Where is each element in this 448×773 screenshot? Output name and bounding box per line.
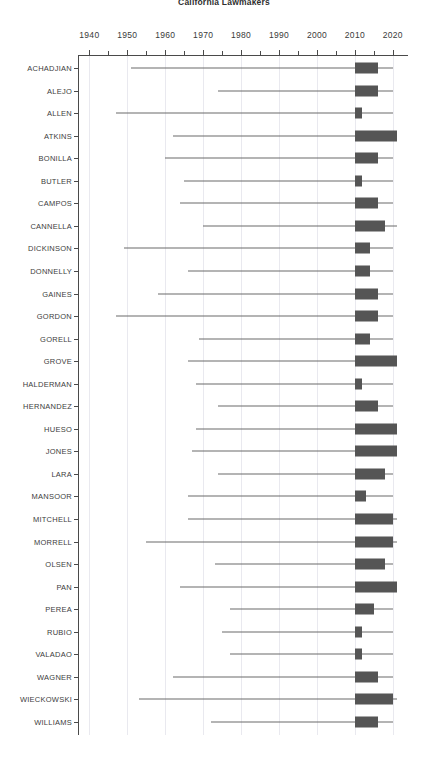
y-axis-label-butler: BUTLER xyxy=(41,176,72,185)
y-axis-label-achadjian: ACHADJIAN xyxy=(27,64,72,73)
box xyxy=(355,559,385,570)
box xyxy=(355,220,385,231)
box xyxy=(355,536,393,547)
whisker xyxy=(124,248,393,249)
x-tick-1970 xyxy=(203,50,204,56)
y-axis-label-wieckowski: WIECKOWSKI xyxy=(20,695,72,704)
y-tick xyxy=(74,519,79,520)
y-tick xyxy=(74,339,79,340)
y-tick xyxy=(74,158,79,159)
box xyxy=(355,175,363,186)
x-tick-1940 xyxy=(89,50,90,56)
box xyxy=(355,446,397,457)
box xyxy=(355,108,363,119)
y-tick xyxy=(74,181,79,182)
y-tick xyxy=(74,496,79,497)
y-tick xyxy=(74,248,79,249)
gridline-2020 xyxy=(393,55,394,735)
y-axis-label-donnelly: DONNELLY xyxy=(30,266,72,275)
y-axis-label-perea: PEREA xyxy=(45,605,72,614)
whisker xyxy=(230,654,393,655)
x-tick-label-1960: 1960 xyxy=(155,30,175,40)
box xyxy=(355,130,397,141)
y-axis-label-bonilla: BONILLA xyxy=(39,154,72,163)
box xyxy=(355,265,370,276)
y-axis-label-hernandez: HERNANDEZ xyxy=(23,402,72,411)
x-tick-label-1950: 1950 xyxy=(117,30,137,40)
y-axis-label-gaines: GAINES xyxy=(42,289,72,298)
x-tick-1960 xyxy=(165,50,166,56)
whisker xyxy=(196,383,393,384)
y-tick xyxy=(74,474,79,475)
y-tick xyxy=(74,451,79,452)
x-tick-2020 xyxy=(393,50,394,56)
x-tick-label-2010: 2010 xyxy=(345,30,365,40)
box xyxy=(355,423,397,434)
box xyxy=(355,153,378,164)
y-axis-label-hueso: HUESO xyxy=(44,424,72,433)
y-tick xyxy=(74,226,79,227)
y-axis-label-jones: JONES xyxy=(46,447,72,456)
x-tick-1990 xyxy=(279,50,280,56)
y-axis-label-allen: ALLEN xyxy=(47,109,72,118)
box xyxy=(355,63,378,74)
y-tick xyxy=(74,203,79,204)
x-tick-label-1970: 1970 xyxy=(193,30,213,40)
y-axis-label-gordon: GORDON xyxy=(37,312,72,321)
box xyxy=(355,514,393,525)
box xyxy=(355,491,366,502)
gridline-1940 xyxy=(89,55,90,735)
x-tick-label-2020: 2020 xyxy=(383,30,403,40)
whisker xyxy=(116,113,393,114)
y-axis-label-halderman: HALDERMAN xyxy=(23,379,72,388)
box xyxy=(355,198,378,209)
y-tick xyxy=(74,113,79,114)
y-axis-label-pan: PAN xyxy=(56,582,72,591)
y-tick xyxy=(74,429,79,430)
y-axis-label-mansoor: MANSOOR xyxy=(31,492,72,501)
x-tick-label-1990: 1990 xyxy=(269,30,289,40)
chart-root: California Lawmakers 1940195019601970198… xyxy=(0,0,448,773)
y-axis-label-gorell: GORELL xyxy=(40,334,72,343)
y-axis-label-lara: LARA xyxy=(51,469,72,478)
y-axis-label-morrell: MORRELL xyxy=(34,537,72,546)
y-tick xyxy=(74,406,79,407)
y-axis-label-wagner: WAGNER xyxy=(37,672,72,681)
y-axis-label-atkins: ATKINS xyxy=(44,131,72,140)
y-axis-label-olsen: OLSEN xyxy=(45,560,72,569)
y-tick xyxy=(74,632,79,633)
box xyxy=(355,85,378,96)
gridline-1950 xyxy=(127,55,128,735)
plot-area: 194019501960197019801990200020102020 ACH… xyxy=(78,55,408,735)
x-tick-2015 xyxy=(374,51,375,56)
y-tick xyxy=(74,699,79,700)
y-tick xyxy=(74,91,79,92)
box xyxy=(355,468,385,479)
x-tick-1985 xyxy=(260,51,261,56)
y-tick xyxy=(74,654,79,655)
x-tick-2005 xyxy=(336,51,337,56)
y-tick xyxy=(74,68,79,69)
x-tick-2010 xyxy=(355,50,356,56)
x-tick-1995 xyxy=(298,51,299,56)
y-tick xyxy=(74,677,79,678)
box xyxy=(355,581,397,592)
box xyxy=(355,311,378,322)
y-axis-label-dickinson: DICKINSON xyxy=(28,244,72,253)
y-tick xyxy=(74,136,79,137)
y-tick xyxy=(74,542,79,543)
y-axis-label-cannella: CANNELLA xyxy=(30,221,72,230)
box xyxy=(355,604,374,615)
y-tick xyxy=(74,271,79,272)
y-axis-label-mitchell: MITCHELL xyxy=(33,515,72,524)
y-axis-line xyxy=(78,55,79,735)
y-axis-label-valadao: VALADAO xyxy=(35,650,72,659)
y-axis-label-rubio: RUBIO xyxy=(47,627,72,636)
box xyxy=(355,333,370,344)
box xyxy=(355,671,378,682)
x-tick-label-1940: 1940 xyxy=(79,30,99,40)
x-tick-1975 xyxy=(222,51,223,56)
box xyxy=(355,356,397,367)
y-tick xyxy=(74,316,79,317)
box xyxy=(355,694,393,705)
